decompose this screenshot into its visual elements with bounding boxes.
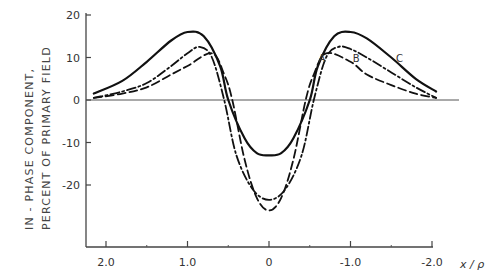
y-tick-label: 20 bbox=[66, 9, 80, 22]
curve-b bbox=[94, 46, 436, 200]
y-tick-label: -10 bbox=[62, 137, 80, 150]
x-axis-title: x / ρ bbox=[459, 258, 484, 271]
line-chart: 20100-10-202.01.00-1.0-2.0 ABC IN - PHAS… bbox=[0, 0, 499, 278]
curve-label-a: A bbox=[319, 53, 326, 64]
x-tick-label: 0 bbox=[266, 256, 273, 269]
y-axis-title: IN - PHASE COMPONENT, PERCENT OF PRIMARY… bbox=[23, 46, 53, 230]
y-tick-label: 10 bbox=[66, 52, 80, 65]
x-tick-label: 2.0 bbox=[97, 256, 115, 269]
series bbox=[94, 32, 436, 211]
y-axis-title-line1: IN - PHASE COMPONENT, bbox=[23, 68, 36, 230]
curve-label-c: C bbox=[396, 53, 403, 64]
curve-label-b: B bbox=[353, 53, 360, 64]
y-axis-title-line2: PERCENT OF PRIMARY FIELD bbox=[40, 46, 53, 230]
ticks: 20100-10-202.01.00-1.0-2.0 bbox=[62, 9, 443, 269]
x-tick-label: -1.0 bbox=[340, 256, 361, 269]
x-tick-label: 1.0 bbox=[179, 256, 197, 269]
axes bbox=[86, 13, 459, 247]
curve-c bbox=[94, 32, 436, 156]
x-tick-label: -2.0 bbox=[421, 256, 442, 269]
y-tick-label: -20 bbox=[62, 179, 80, 192]
curve-a bbox=[94, 53, 436, 211]
y-tick-label: 0 bbox=[73, 94, 80, 107]
